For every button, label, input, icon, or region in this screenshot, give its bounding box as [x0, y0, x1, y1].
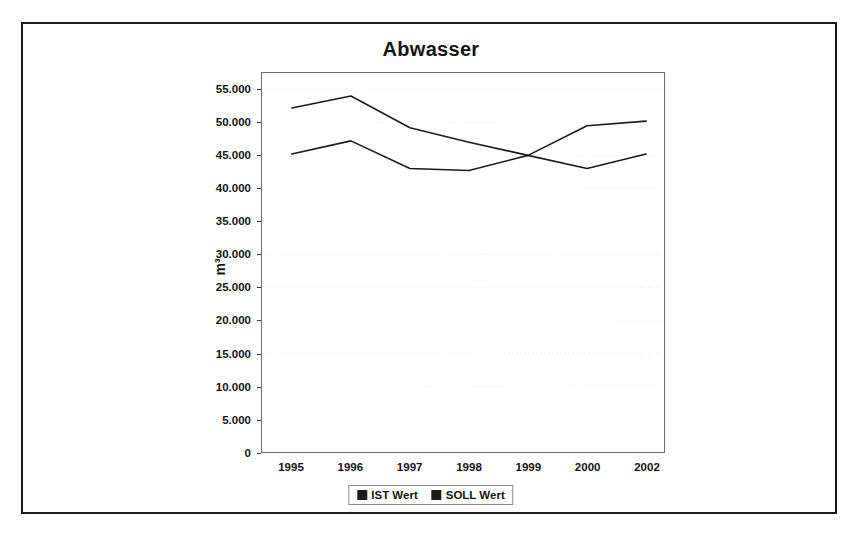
y-tick-label: 45.000	[181, 149, 251, 161]
plot-area	[261, 72, 665, 453]
chart-container: Abwasser m³ 05.00010.00015.00020.00025.0…	[23, 24, 839, 512]
y-tick-label: 25.000	[181, 281, 251, 293]
legend-item[interactable]: SOLL Wert	[432, 489, 505, 501]
x-tick-label: 1997	[380, 461, 440, 473]
y-tick-label: 30.000	[181, 248, 251, 260]
series-line-1	[292, 96, 646, 155]
y-tick-label: 50.000	[181, 116, 251, 128]
legend-swatch-icon	[357, 490, 367, 500]
legend-label: SOLL Wert	[446, 489, 505, 501]
y-tick-mark	[257, 453, 261, 454]
document-frame: Abwasser m³ 05.00010.00015.00020.00025.0…	[21, 22, 837, 514]
y-tick-label: 20.000	[181, 314, 251, 326]
x-tick-label: 2000	[558, 461, 618, 473]
legend-label: IST Wert	[371, 489, 417, 501]
x-tick-label: 1996	[320, 461, 380, 473]
x-axis-ticks: 1995199619971998199920002002	[261, 456, 665, 480]
y-tick-label: 15.000	[181, 348, 251, 360]
chart-legend: IST WertSOLL Wert	[348, 485, 513, 505]
series-line-0	[292, 141, 646, 171]
plot-inner	[262, 73, 664, 452]
x-tick-label: 1998	[439, 461, 499, 473]
y-tick-label: 10.000	[181, 381, 251, 393]
y-tick-label: 0	[181, 447, 251, 459]
y-tick-label: 35.000	[181, 215, 251, 227]
legend-item[interactable]: IST Wert	[357, 489, 417, 501]
y-tick-label: 55.000	[181, 83, 251, 95]
x-tick-label: 1995	[261, 461, 321, 473]
x-tick-label: 1999	[498, 461, 558, 473]
y-tick-label: 5.000	[181, 414, 251, 426]
x-tick-label: 2002	[617, 461, 677, 473]
legend-swatch-icon	[432, 490, 442, 500]
y-tick-label: 40.000	[181, 182, 251, 194]
y-axis-ticks: 05.00010.00015.00020.00025.00030.00035.0…	[180, 72, 261, 453]
data-series-layer	[262, 73, 664, 452]
chart-title: Abwasser	[23, 38, 839, 61]
